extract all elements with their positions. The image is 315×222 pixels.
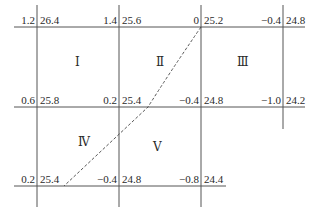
region-label-II: Ⅱ	[156, 56, 164, 68]
node-left-value: 0	[169, 14, 199, 26]
node-left-value: −1.0	[251, 94, 281, 106]
node-left-value: −0.4	[169, 94, 199, 106]
node-left-value: 1.4	[87, 14, 117, 26]
region-label-IV: Ⅳ	[78, 136, 90, 148]
node-left-value: 1.2	[5, 14, 35, 26]
node-right-value: 25.4	[40, 173, 59, 185]
region-label-I: Ⅰ	[75, 56, 80, 68]
node-left-value: −0.4	[87, 173, 117, 185]
node-right-value: 24.8	[286, 14, 305, 26]
grid-diagram	[0, 0, 315, 222]
region-label-V: Ⅴ	[153, 141, 162, 153]
node-right-value: 26.4	[40, 14, 59, 26]
node-left-value: −0.4	[251, 14, 281, 26]
node-right-value: 24.8	[122, 173, 141, 185]
node-right-value: 24.8	[204, 94, 223, 106]
region-label-III: Ⅲ	[237, 56, 249, 68]
node-right-value: 25.4	[122, 94, 141, 106]
node-right-value: 24.2	[286, 94, 305, 106]
node-left-value: 0.2	[5, 173, 35, 185]
node-left-value: 0.2	[87, 94, 117, 106]
node-right-value: 25.2	[204, 14, 223, 26]
node-right-value: 24.4	[204, 173, 223, 185]
node-right-value: 25.6	[122, 14, 141, 26]
node-left-value: −0.8	[169, 173, 199, 185]
node-left-value: 0.6	[5, 94, 35, 106]
node-right-value: 25.8	[40, 94, 59, 106]
